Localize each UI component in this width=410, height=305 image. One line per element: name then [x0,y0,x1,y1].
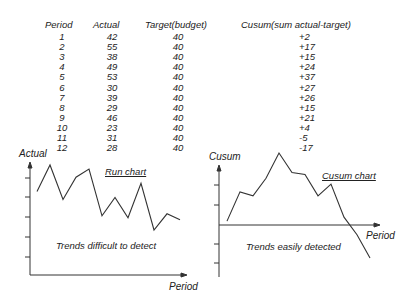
cusum-y-arrow-icon [217,165,221,171]
run-y-arrow-icon [28,162,32,168]
cusum-xlabel: Period [366,231,395,241]
run-x-arrow-icon [181,273,187,277]
cusum-annotation: Trends easily detected [246,242,341,252]
cusum-ylabel: Cusum [209,152,241,162]
run-ylabel: Actual [19,149,47,159]
charts-svg [0,0,410,305]
cusum-x-arrow-icon [374,223,380,227]
run-xlabel: Period [169,282,198,292]
run-y-ticks [25,178,30,257]
run-annotation: Trends difficult to detect [56,241,156,251]
cusum-y-ticks [214,185,219,263]
cusum-title: Cusum chart [322,171,376,181]
run-title: Run chart [105,167,146,177]
